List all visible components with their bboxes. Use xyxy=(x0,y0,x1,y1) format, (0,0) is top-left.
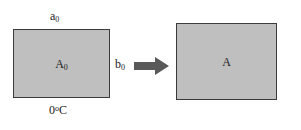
initial-height-label: b0 xyxy=(115,58,125,70)
initial-degree-symbol: o xyxy=(55,104,59,113)
initial-area-subscript: 0 xyxy=(64,63,68,72)
initial-height-subscript: 0 xyxy=(121,63,125,72)
final-plate-shape: A xyxy=(176,23,277,100)
initial-area-label: A0 xyxy=(14,58,109,70)
thermal-expansion-diagram: a0 A0 b0 0oC a A b toC xyxy=(0,0,301,130)
initial-width-subscript: 0 xyxy=(55,15,59,24)
initial-state-panel: a0 A0 b0 0oC xyxy=(0,0,140,130)
final-area-label: A xyxy=(177,56,276,68)
initial-plate-shape: A0 xyxy=(13,29,110,98)
final-state-panel: a A b toC xyxy=(161,0,301,130)
initial-temperature-label: 0oC xyxy=(49,104,67,116)
initial-width-label: a0 xyxy=(50,10,59,22)
